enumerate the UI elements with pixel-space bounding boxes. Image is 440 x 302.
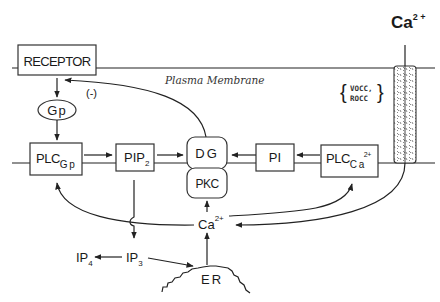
gp-label: Gp [47, 103, 66, 118]
cytosolic-calcium-label: Ca2+ [198, 214, 224, 232]
channel-type-annotation: { VOCC, ROCC } [340, 81, 384, 103]
pi-label: PI [269, 150, 281, 165]
calcium-channel [394, 45, 416, 163]
svg-text:{: { [340, 81, 347, 103]
pkc-label: PKC [195, 177, 219, 191]
arrow-ip3-to-er [148, 258, 193, 266]
negative-feedback-label: (-) [86, 87, 97, 99]
extracellular-calcium-label: Ca2 + [391, 12, 426, 32]
gp-node: Gp [38, 100, 76, 120]
arrow-ca-to-plcgp [57, 183, 194, 225]
pip2-node: PIP2 [116, 144, 154, 171]
plc-gp-node: PLCG p [30, 143, 82, 175]
plc-ca-node: PLCC a2+ [321, 145, 378, 177]
pi-node: PI [256, 144, 294, 171]
receptor-label: RECEPTOR [23, 54, 90, 69]
vocc-label: VOCC, [350, 84, 373, 93]
receptor-node: RECEPTOR [18, 45, 96, 75]
ip4-label: IP4 [76, 250, 93, 268]
rocc-label: ROCC [350, 94, 368, 103]
ip3-label: IP3 [126, 250, 143, 268]
dg-label: DG [195, 146, 219, 161]
er-label: ER [201, 272, 223, 287]
arrow-ca-to-plcca [229, 184, 352, 216]
arrow-pip2-to-ip3 [130, 180, 134, 238]
pathway-diagram: RECEPTOR Plasma Membrane (-) Gp PLCG p P… [0, 0, 440, 302]
dg-node: DG [187, 137, 227, 169]
svg-text:}: } [377, 81, 384, 103]
plasma-membrane-label: Plasma Membrane [164, 74, 265, 86]
pkc-node: PKC [187, 168, 227, 198]
